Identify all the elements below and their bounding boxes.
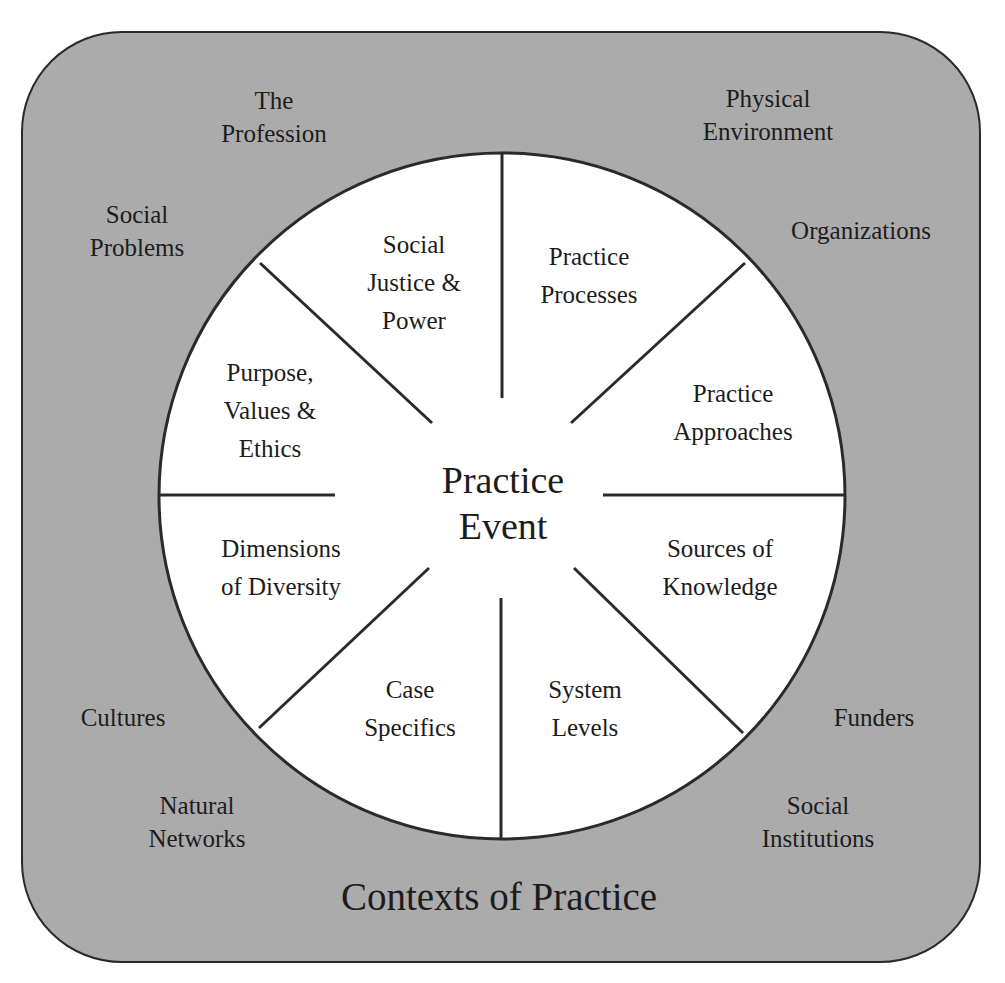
- context-social-institutions: Social Institutions: [762, 790, 875, 855]
- context-organizations: Organizations: [791, 215, 931, 248]
- segment-practice-processes: Practice Processes: [540, 238, 637, 314]
- segment-sources-of-knowledge: Sources of Knowledge: [662, 530, 777, 606]
- segment-case-specifics: Case Specifics: [364, 671, 456, 747]
- segment-practice-approaches: Practice Approaches: [673, 375, 792, 451]
- context-cultures: Cultures: [81, 702, 166, 735]
- context-the-profession: The Profession: [221, 85, 327, 150]
- segment-system-levels: System Levels: [548, 671, 622, 747]
- center-line: Event: [442, 503, 564, 549]
- segment-social-justice-power: Social Justice & Power: [367, 226, 461, 340]
- practice-event-label: Practice Event: [442, 457, 564, 550]
- segment-purpose-values-ethics: Purpose, Values & Ethics: [224, 354, 316, 468]
- context-physical-environment: Physical Environment: [703, 83, 834, 148]
- segment-dimensions-of-diversity: Dimensions of Diversity: [221, 530, 341, 606]
- center-line: Practice: [442, 457, 564, 503]
- context-social-problems: Social Problems: [90, 199, 184, 264]
- context-funders: Funders: [834, 702, 915, 735]
- diagram-title: Contexts of Practice: [341, 872, 657, 923]
- context-natural-networks: Natural Networks: [148, 790, 245, 855]
- contexts-of-practice-diagram: Practice Event Social Justice & Power Pr…: [0, 0, 1005, 983]
